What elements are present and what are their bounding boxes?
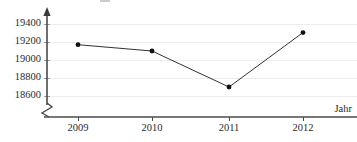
x-tick-label-2: 2011 [219, 122, 240, 133]
plot-area-background [46, 18, 357, 108]
x-tick-label-0: 2009 [68, 122, 89, 133]
y-tick-label-0: 19400 [15, 17, 41, 28]
y-tick-label-3: 18800 [15, 71, 41, 82]
chart-container: 19400 19200 19000 18800 18600 2009 2010 [0, 0, 357, 142]
data-point-2011 [227, 85, 232, 90]
y-axis-labels: 19400 19200 19000 18800 18600 [15, 17, 41, 100]
data-point-2012 [301, 30, 306, 35]
y-tick-label-1: 19200 [15, 35, 41, 46]
x-tick-label-3: 2012 [293, 122, 314, 133]
x-axis-title: Jahr [335, 103, 353, 114]
data-point-2010 [150, 49, 155, 54]
y-axis-arrow-icon [43, 7, 50, 16]
line-chart: 19400 19200 19000 18800 18600 2009 2010 [0, 0, 357, 142]
x-axis-labels: 2009 2010 2011 2012 [68, 122, 314, 133]
data-point-2009 [76, 42, 81, 47]
y-tick-label-2: 19000 [15, 53, 41, 64]
x-tick-label-1: 2010 [142, 122, 163, 133]
y-tick-label-4: 18600 [15, 89, 41, 100]
